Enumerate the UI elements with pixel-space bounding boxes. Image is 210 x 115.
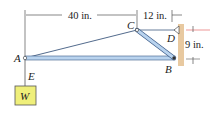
dim-label-40: 40 in. xyxy=(68,10,92,21)
label-E: E xyxy=(27,70,35,82)
dim-label-12: 12 in. xyxy=(143,10,167,21)
pin-C xyxy=(135,28,138,31)
pin-B xyxy=(172,56,175,59)
truss-diagram: 40 in. 12 in. 9 in. A B C D E W xyxy=(0,0,210,115)
dim-label-9: 9 in. xyxy=(185,39,204,50)
label-W: W xyxy=(20,90,30,102)
label-C: C xyxy=(127,19,135,31)
member-AB xyxy=(25,56,175,60)
label-A: A xyxy=(13,52,21,64)
cable-AC xyxy=(25,30,137,58)
label-B: B xyxy=(165,63,172,75)
label-D: D xyxy=(166,32,175,44)
pin-A xyxy=(23,56,26,59)
